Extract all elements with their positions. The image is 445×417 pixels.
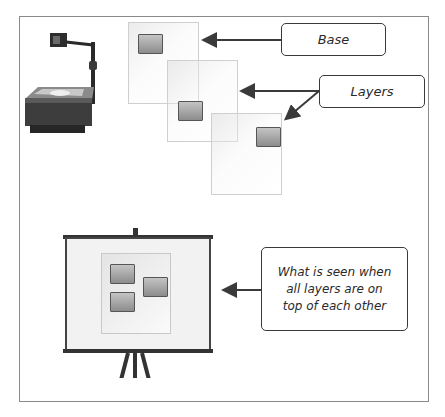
layers-callout-label: Layers (350, 84, 393, 99)
base-callout-label: Base (318, 32, 350, 47)
composite-layer-2-element (110, 292, 135, 312)
composite-layer-3-element (143, 277, 168, 297)
composite-callout-label: What is seen when all layers are on top … (276, 264, 393, 315)
composite-view (101, 253, 171, 334)
layer-2-element (178, 101, 203, 121)
layer-3 (211, 113, 282, 195)
layers-callout: Layers (319, 75, 425, 108)
layer-3-element (256, 127, 281, 147)
overhead-projector-icon (22, 28, 102, 138)
base-callout: Base (281, 23, 386, 56)
base-layer-element (138, 34, 163, 54)
composite-callout: What is seen when all layers are on top … (261, 247, 408, 331)
composite-base-element (110, 264, 135, 284)
